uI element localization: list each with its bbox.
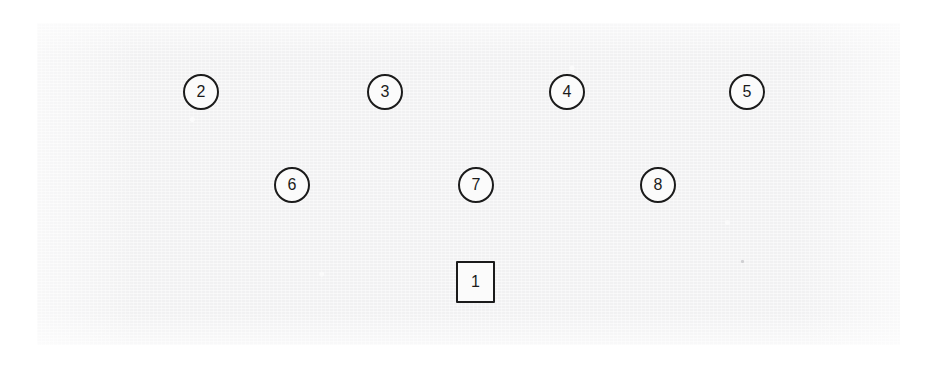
- callout-marker-6[interactable]: 6: [274, 167, 310, 203]
- callout-marker-5[interactable]: 5: [729, 74, 765, 110]
- callout-marker-4[interactable]: 4: [549, 74, 585, 110]
- callout-marker-8-label: 8: [654, 177, 663, 193]
- callout-marker-3-label: 3: [381, 84, 390, 100]
- callout-marker-1[interactable]: 1: [456, 261, 495, 303]
- callout-marker-7[interactable]: 7: [458, 167, 494, 203]
- callout-marker-1-label: 1: [471, 274, 480, 290]
- callout-marker-4-label: 4: [563, 84, 572, 100]
- callout-marker-5-label: 5: [743, 84, 752, 100]
- screenshot-canvas: 2 3 4 5 6 7 8 1: [0, 0, 938, 374]
- callout-marker-3[interactable]: 3: [367, 74, 403, 110]
- callout-marker-2[interactable]: 2: [183, 74, 219, 110]
- callout-marker-7-label: 7: [472, 177, 481, 193]
- callout-marker-2-label: 2: [197, 84, 206, 100]
- callout-marker-6-label: 6: [288, 177, 297, 193]
- callout-marker-8[interactable]: 8: [640, 167, 676, 203]
- scan-speck: [741, 260, 744, 263]
